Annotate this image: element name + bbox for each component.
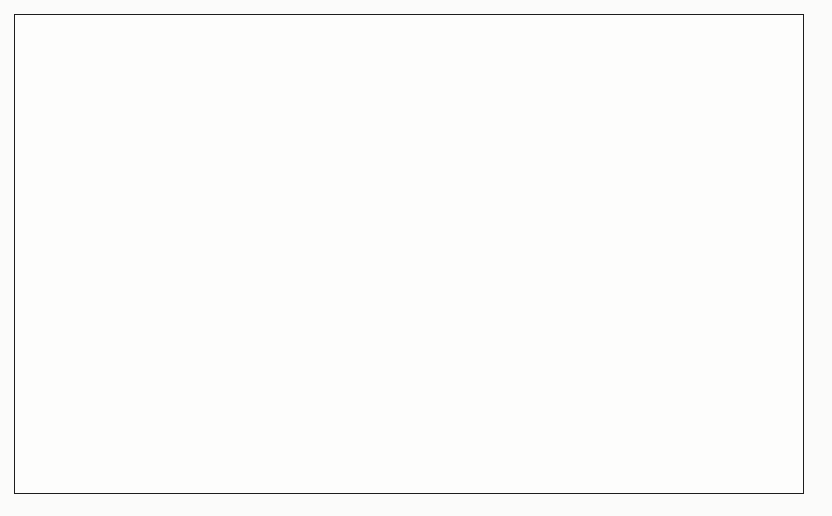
- plot-area: [89, 46, 619, 433]
- y-axis: [15, 46, 83, 433]
- stacked-area-svg: [89, 46, 619, 433]
- area-chart: [15, 15, 805, 492]
- chart-figure-frame: [14, 14, 804, 494]
- scanned-page-artifacts: [0, 0, 832, 14]
- x-axis: [89, 434, 619, 492]
